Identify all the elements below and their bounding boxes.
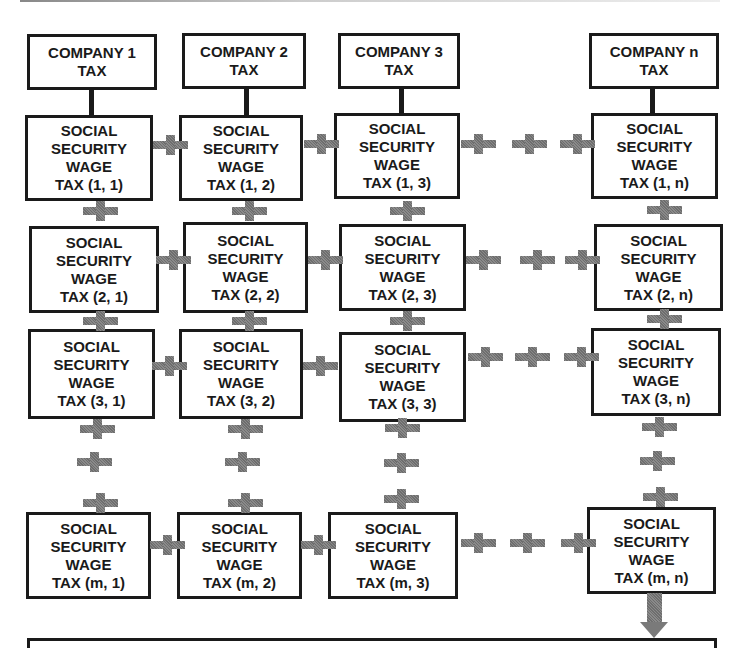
plus-icon xyxy=(564,347,599,367)
plus-icon xyxy=(83,201,118,221)
cell-index: TAX (2, 3) xyxy=(368,286,436,304)
cell-3-3: SOCIAL SECURITY WAGE TAX (3, 3) xyxy=(339,332,466,422)
cell-index: TAX (m, n) xyxy=(615,569,689,587)
cell-index: TAX (m, 3) xyxy=(356,574,429,592)
plus-icon xyxy=(390,311,425,331)
cell-line: SECURITY xyxy=(203,140,279,158)
plus-icon xyxy=(83,311,118,331)
cell-line: WAGE xyxy=(71,270,117,288)
cell-line: SOCIAL xyxy=(217,232,274,250)
cell-line: SOCIAL xyxy=(365,520,422,538)
plus-icon xyxy=(520,250,555,270)
cell-line: SOCIAL xyxy=(623,515,680,533)
cell-line: SOCIAL xyxy=(628,336,685,354)
company-1-tax-box: COMPANY 1 TAX xyxy=(27,34,157,90)
cell-line: SOCIAL xyxy=(211,520,268,538)
company-tax-label: TAX xyxy=(78,62,107,80)
plus-icon xyxy=(561,533,596,553)
cell-line: SECURITY xyxy=(618,354,694,372)
top-divider-line xyxy=(20,0,720,2)
cell-line: WAGE xyxy=(217,556,263,574)
plus-icon xyxy=(225,452,260,472)
plus-icon xyxy=(228,419,263,439)
cell-line: SOCIAL xyxy=(630,232,687,250)
cell-line: SECURITY xyxy=(359,138,435,156)
cell-3-1: SOCIAL SECURITY WAGE TAX (3, 1) xyxy=(28,329,155,419)
cell-2-2: SOCIAL SECURITY WAGE TAX (2, 2) xyxy=(183,222,308,313)
plus-icon xyxy=(228,493,263,513)
company-label: COMPANY 3 xyxy=(355,43,443,61)
plus-icon xyxy=(461,134,496,154)
cell-line: WAGE xyxy=(218,374,264,392)
plus-icon xyxy=(647,309,682,329)
plus-icon xyxy=(384,489,419,509)
cell-line: SOCIAL xyxy=(369,120,426,138)
cell-index: TAX (m, 2) xyxy=(203,574,276,592)
company-n-tax-box: COMPANY n TAX xyxy=(589,33,719,89)
plus-icon xyxy=(565,250,600,270)
plus-icon xyxy=(153,135,188,155)
cell-index: TAX (2, n) xyxy=(624,286,693,304)
cell-index: TAX (1, 2) xyxy=(207,176,275,194)
company-3-connector xyxy=(399,88,404,114)
down-arrow-icon xyxy=(647,593,662,623)
cell-line: SECURITY xyxy=(203,356,279,374)
company-n-connector xyxy=(650,88,655,114)
plus-icon xyxy=(385,418,420,438)
cell-line: WAGE xyxy=(69,374,115,392)
plus-icon xyxy=(83,493,118,513)
cell-index: TAX (2, 1) xyxy=(60,288,128,306)
cell-line: WAGE xyxy=(380,377,426,395)
cell-index: TAX (1, 1) xyxy=(55,176,123,194)
cell-line: SECURITY xyxy=(54,356,130,374)
plus-icon xyxy=(301,535,336,555)
cell-line: WAGE xyxy=(633,372,679,390)
cell-line: WAGE xyxy=(66,556,112,574)
cell-line: SECURITY xyxy=(202,538,278,556)
cell-index: TAX (1, 3) xyxy=(363,174,431,192)
cell-line: WAGE xyxy=(66,158,112,176)
cell-2-3: SOCIAL SECURITY WAGE TAX (2, 3) xyxy=(339,224,466,311)
cell-line: SOCIAL xyxy=(626,120,683,138)
cell-line: WAGE xyxy=(223,268,269,286)
plus-icon xyxy=(510,533,545,553)
plus-icon xyxy=(384,453,419,473)
company-tax-label: TAX xyxy=(640,61,669,79)
plus-icon xyxy=(640,451,675,471)
company-1-connector xyxy=(89,89,94,116)
cell-m-1: SOCIAL SECURITY WAGE TAX (m, 1) xyxy=(26,512,151,599)
cell-line: SOCIAL xyxy=(60,520,117,538)
company-tax-label: TAX xyxy=(230,61,259,79)
cell-line: SOCIAL xyxy=(63,338,120,356)
plus-icon xyxy=(466,250,501,270)
cell-m-3: SOCIAL SECURITY WAGE TAX (m, 3) xyxy=(328,512,458,599)
cell-line: SOCIAL xyxy=(374,341,431,359)
cell-line: SOCIAL xyxy=(61,122,118,140)
plus-icon xyxy=(512,134,547,154)
cell-line: SECURITY xyxy=(51,538,127,556)
plus-icon xyxy=(560,134,595,154)
cell-line: WAGE xyxy=(380,268,426,286)
cell-m-2: SOCIAL SECURITY WAGE TAX (m, 2) xyxy=(177,512,302,599)
plus-icon xyxy=(232,201,267,221)
plus-icon xyxy=(77,452,112,472)
cell-1-2: SOCIAL SECURITY WAGE TAX (1, 2) xyxy=(179,115,303,201)
plus-icon xyxy=(303,356,338,376)
cell-line: SECURITY xyxy=(617,138,693,156)
plus-icon xyxy=(152,356,187,376)
plus-icon xyxy=(643,487,678,507)
cell-index: TAX (3, 1) xyxy=(57,392,125,410)
company-tax-label: TAX xyxy=(385,61,414,79)
company-2-connector xyxy=(244,88,249,116)
cell-index: TAX (3, 2) xyxy=(207,392,275,410)
plus-icon xyxy=(461,533,496,553)
cell-index: TAX (3, 3) xyxy=(368,395,436,413)
cell-line: SOCIAL xyxy=(213,338,270,356)
down-arrow-head-icon xyxy=(640,622,668,638)
cell-3-2: SOCIAL SECURITY WAGE TAX (3, 2) xyxy=(179,329,303,419)
cell-1-1: SOCIAL SECURITY WAGE TAX (1, 1) xyxy=(25,115,153,201)
company-3-tax-box: COMPANY 3 TAX xyxy=(338,33,460,89)
plus-icon xyxy=(304,134,339,154)
cell-line: SECURITY xyxy=(355,538,431,556)
cell-index: TAX (m, 1) xyxy=(52,574,125,592)
